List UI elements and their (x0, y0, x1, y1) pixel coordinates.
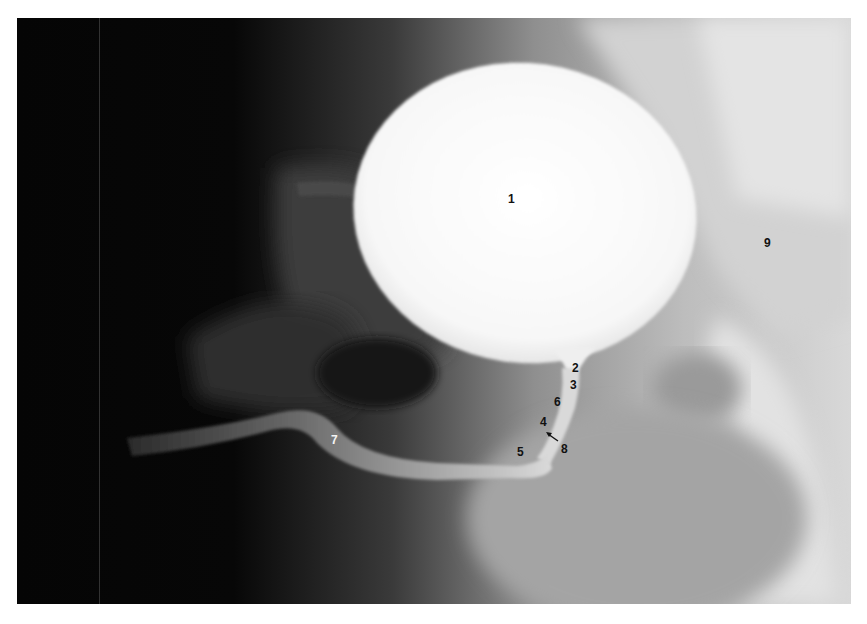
label-9: 9 (764, 237, 771, 249)
label-1-bladder: 1 (508, 193, 515, 205)
label-3: 3 (570, 379, 577, 391)
radiograph-image (17, 18, 851, 604)
label-7: 7 (331, 434, 338, 446)
label-2: 2 (572, 362, 579, 374)
label-4: 4 (540, 416, 547, 428)
radiograph-frame (17, 18, 851, 604)
label-8: 8 (561, 443, 568, 455)
label-5: 5 (517, 446, 524, 458)
film-scan-line (99, 18, 100, 604)
label-6: 6 (554, 396, 561, 408)
